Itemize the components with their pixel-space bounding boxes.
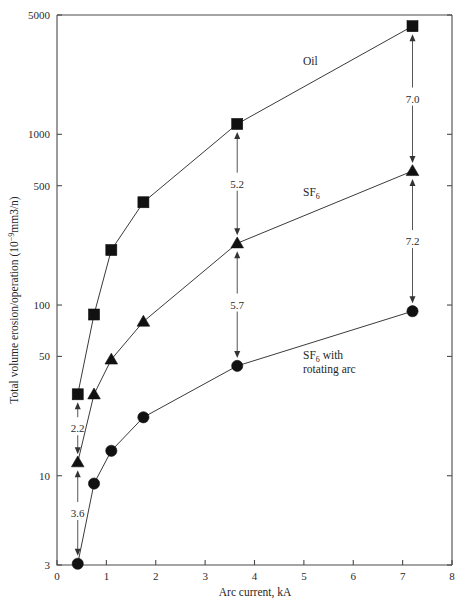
y-axis-title-tail: mm3/n) bbox=[8, 196, 21, 233]
y-tick-label-3: 3 bbox=[45, 559, 51, 571]
x-tick-label-7: 7 bbox=[400, 570, 406, 582]
y-tick-label-100: 100 bbox=[34, 299, 51, 311]
y-axis-title-exponent: −9 bbox=[7, 233, 16, 242]
series-label-sf6-main: SF bbox=[303, 186, 316, 198]
chart-figure: 012345678 3105010050010005000 2.23.65.25… bbox=[0, 0, 463, 607]
x-tick-label-3: 3 bbox=[202, 570, 208, 582]
y-axis-title-main: Total volume erosion/operation (10 bbox=[8, 241, 21, 404]
data-point-circle-0 bbox=[72, 558, 83, 569]
data-point-square-4 bbox=[232, 118, 243, 129]
x-tick-label-8: 8 bbox=[449, 570, 455, 582]
x-tick-label-2: 2 bbox=[153, 570, 159, 582]
data-point-circle-2 bbox=[106, 445, 117, 456]
y-tick-label-5000: 5000 bbox=[28, 9, 51, 21]
data-point-square-1 bbox=[89, 309, 100, 320]
x-axis-title: Arc current, kA bbox=[219, 586, 292, 599]
data-point-square-0 bbox=[72, 389, 83, 400]
annotation-label-2-2: 2.2 bbox=[71, 422, 85, 434]
series-label-oil: Oil bbox=[303, 55, 318, 67]
annotation-label-7-2: 7.2 bbox=[406, 235, 420, 247]
series-label-sf6-rot-tail: with bbox=[320, 349, 344, 361]
annotation-label-7-0: 7.0 bbox=[406, 93, 420, 105]
series-label-sf6-rot-main: SF bbox=[303, 349, 316, 361]
series-label-sf6-rotating-line2: rotating arc bbox=[303, 363, 356, 376]
data-point-circle-1 bbox=[88, 478, 99, 489]
y-tick-label-50: 50 bbox=[39, 350, 51, 362]
data-point-square-3 bbox=[138, 197, 149, 208]
y-tick-label-10: 10 bbox=[39, 470, 51, 482]
series-label-sf6-subscript: 6 bbox=[316, 192, 320, 201]
y-tick-label-1000: 1000 bbox=[28, 128, 51, 140]
annotation-label-5-7: 5.7 bbox=[230, 299, 244, 311]
data-point-square-2 bbox=[106, 245, 117, 256]
data-point-circle-5 bbox=[407, 306, 418, 317]
x-tick-label-6: 6 bbox=[351, 570, 357, 582]
y-axis-title: Total volume erosion/operation (10−9mm3/… bbox=[7, 196, 21, 404]
x-tick-label-4: 4 bbox=[252, 570, 258, 582]
x-tick-label-5: 5 bbox=[301, 570, 307, 582]
erosion-vs-arc-current-chart: 012345678 3105010050010005000 2.23.65.25… bbox=[0, 0, 463, 607]
data-point-circle-4 bbox=[232, 360, 243, 371]
data-point-square-5 bbox=[407, 21, 418, 32]
annotation-label-5-2: 5.2 bbox=[230, 178, 244, 190]
y-tick-label-500: 500 bbox=[34, 180, 51, 192]
x-tick-label-0: 0 bbox=[54, 570, 60, 582]
data-point-circle-3 bbox=[138, 412, 149, 423]
x-tick-label-1: 1 bbox=[104, 570, 110, 582]
annotation-label-3-6: 3.6 bbox=[71, 507, 85, 519]
